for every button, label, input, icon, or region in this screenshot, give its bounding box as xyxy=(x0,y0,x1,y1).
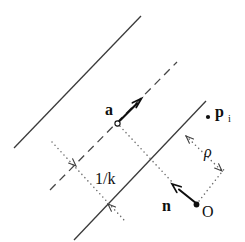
origin-point-marker xyxy=(194,202,200,208)
label-rho: ρ xyxy=(203,143,212,161)
point-a-marker xyxy=(115,121,120,126)
label-pi-subscript: i xyxy=(228,113,231,124)
label-pi-main: p xyxy=(215,103,224,121)
label-a: a xyxy=(105,101,113,118)
label-one-over-k: 1/k xyxy=(95,170,115,187)
label-origin: O xyxy=(202,203,214,220)
point-pi-marker xyxy=(206,115,210,119)
label-n: n xyxy=(162,197,171,214)
diagram-canvas: a p i ρ 1/k n O xyxy=(0,0,245,242)
geometry-diagram: a p i ρ 1/k n O xyxy=(0,0,245,242)
